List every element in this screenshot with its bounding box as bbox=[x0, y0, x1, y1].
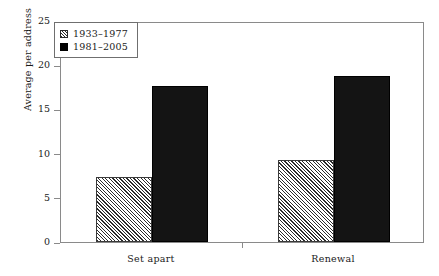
legend-entry: 1981–2005 bbox=[60, 40, 128, 53]
y-axis-tick-label: 25 bbox=[18, 15, 50, 26]
y-axis-tick-label: 20 bbox=[18, 59, 50, 70]
y-axis-tick-label: 15 bbox=[18, 103, 50, 114]
bar-set-apart-1933–1977 bbox=[96, 177, 152, 242]
y-axis-tick-label: 10 bbox=[18, 148, 50, 159]
chart-legend: 1933–19771981–2005 bbox=[54, 22, 138, 58]
hatch-swatch-icon bbox=[60, 30, 68, 38]
legend-entry: 1933–1977 bbox=[60, 27, 128, 40]
bar-set-apart-1981–2005 bbox=[152, 86, 208, 242]
solid-swatch-icon bbox=[60, 43, 68, 51]
x-axis-tick-mark bbox=[242, 243, 243, 248]
x-axis-label-set-apart: Set apart bbox=[91, 253, 211, 264]
legend-entry-label: 1981–2005 bbox=[73, 41, 128, 52]
legend-entry-label: 1933–1977 bbox=[73, 28, 128, 39]
bar-renewal-1933–1977 bbox=[278, 160, 334, 242]
x-axis-label-renewal: Renewal bbox=[273, 253, 393, 264]
bar-renewal-1981–2005 bbox=[334, 76, 390, 242]
y-axis-tick-label: 5 bbox=[18, 192, 50, 203]
y-axis-tick-label: 0 bbox=[18, 236, 50, 247]
chart-figure: Average per address 0510152025 Set apart… bbox=[0, 0, 439, 276]
